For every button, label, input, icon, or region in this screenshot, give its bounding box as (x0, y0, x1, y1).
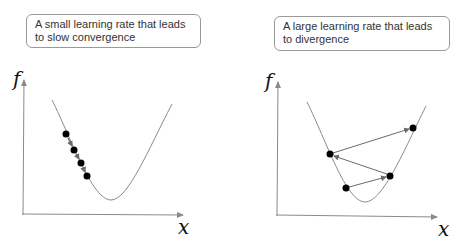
iterate-point (410, 125, 417, 132)
right-plot: f x (263, 69, 449, 241)
iterate-point (84, 173, 91, 180)
gradient-descent-diagram: f x f x (0, 0, 462, 244)
iterate-point (78, 160, 85, 167)
step-arrow (349, 177, 386, 187)
iterate-point (387, 173, 394, 180)
iterate-point (327, 151, 334, 158)
loss-curve (52, 100, 172, 200)
iterate-point (71, 147, 78, 154)
x-axis-label: x (178, 215, 189, 239)
x-axis (22, 214, 183, 215)
x-axis (276, 215, 437, 217)
y-axis-label: f (263, 69, 276, 93)
x-axis-label: x (438, 217, 449, 241)
left-plot: f x (11, 67, 189, 239)
loss-curve (307, 102, 426, 202)
y-axis-label: f (11, 67, 24, 91)
iterate-point (63, 131, 70, 138)
step-arrow (333, 129, 409, 153)
step-arrow (334, 156, 387, 174)
y-axis (23, 80, 24, 215)
y-axis (277, 82, 278, 216)
iterate-point (343, 185, 350, 192)
